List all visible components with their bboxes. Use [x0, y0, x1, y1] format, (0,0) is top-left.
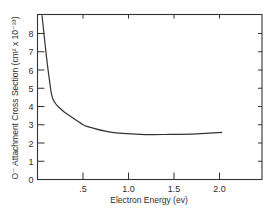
x-tick-label: 1.0	[122, 184, 135, 194]
x-axis-ticks: .51.01.52.0	[79, 15, 226, 194]
plot-frame	[38, 15, 263, 180]
y-tick-label: 4	[28, 102, 33, 112]
y-tick-label: 7	[28, 47, 33, 57]
plot-area: .51.01.52.0 012345678	[28, 15, 262, 194]
cross-section-chart: .51.01.52.0 012345678 Electron Energy (e…	[0, 0, 275, 214]
y-tick-label: 8	[28, 29, 33, 39]
y-tick-label: 3	[28, 120, 33, 130]
x-tick-label: .5	[79, 184, 87, 194]
x-tick-label: 1.5	[168, 184, 181, 194]
y-tick-label: 5	[28, 84, 33, 94]
y-tick-label: 2	[28, 139, 33, 149]
data-curve	[42, 15, 222, 134]
y-tick-label: 1	[28, 157, 33, 167]
y-tick-label: 0	[28, 175, 33, 185]
y-axis-ticks: 012345678	[28, 29, 262, 185]
x-tick-label: 2.0	[213, 184, 226, 194]
x-axis-title: Electron Energy (ev)	[110, 195, 188, 205]
y-tick-label: 6	[28, 66, 33, 76]
y-axis-title: O⁻ Attachment Cross Section (cm² x 10⁻²³…	[10, 16, 20, 179]
